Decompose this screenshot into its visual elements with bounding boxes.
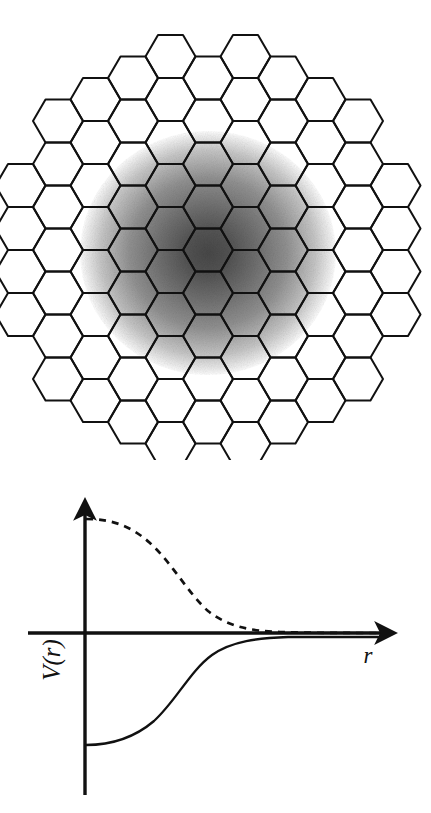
lattice-svg <box>0 0 431 460</box>
attractive-potential-curve <box>86 637 378 745</box>
hexagon-cell <box>371 207 421 250</box>
hexagon-cell <box>221 78 271 121</box>
hexagon-cell <box>33 186 83 229</box>
hexagon-cell <box>296 379 346 422</box>
repulsive-potential-curve <box>86 519 382 633</box>
hexagon-cell <box>71 121 121 164</box>
hexagon-cell <box>258 100 308 143</box>
hexagon-cell <box>0 250 46 293</box>
hexagon-cell <box>71 336 121 379</box>
hexagon-cell <box>258 401 308 444</box>
hexagon-cell <box>333 315 383 358</box>
hexagon-cell <box>33 100 83 143</box>
hexagon-cell <box>108 401 158 444</box>
hexagon-cell <box>71 78 121 121</box>
hexagon-cell <box>146 379 196 422</box>
hexagon-cell <box>296 336 346 379</box>
hexagon-cell <box>108 358 158 401</box>
hexagon-cell <box>33 272 83 315</box>
hexagon-cell <box>333 358 383 401</box>
hexagon-cell <box>183 57 233 100</box>
hexagon-cell <box>71 379 121 422</box>
hexagonal-lattice-panel <box>0 0 431 460</box>
hexagon-cell <box>183 401 233 444</box>
hexagon-cell <box>258 57 308 100</box>
hexagon-cell <box>108 100 158 143</box>
hexagon-cell <box>33 358 83 401</box>
hexagon-cell <box>146 78 196 121</box>
figure-root: V(r) r <box>0 0 431 813</box>
hexagon-cell <box>371 293 421 336</box>
hexagon-cell <box>333 272 383 315</box>
hexagon-cell <box>296 78 346 121</box>
hexagon-cell <box>33 315 83 358</box>
hexagon-cell <box>333 229 383 272</box>
potential-svg: V(r) r <box>0 455 431 813</box>
hexagon-cell <box>33 143 83 186</box>
hexagon-cell <box>371 164 421 207</box>
y-axis-label: V(r) <box>38 639 66 681</box>
hexagon-cell <box>0 164 46 207</box>
hexagon-cell <box>371 250 421 293</box>
hexagon-cell <box>221 35 271 78</box>
hexagon-cell <box>0 207 46 250</box>
potential-plot-panel: V(r) r <box>0 455 431 813</box>
hexagon-cell <box>221 379 271 422</box>
radial-gradient-blob <box>80 131 336 375</box>
hexagon-cell <box>333 186 383 229</box>
hexagon-cell <box>146 35 196 78</box>
hexagon-cell <box>0 293 46 336</box>
hexagon-cell <box>333 100 383 143</box>
hexagon-cell <box>333 143 383 186</box>
hexagon-cell <box>108 57 158 100</box>
x-axis-label: r <box>364 643 374 668</box>
hexagon-cell <box>258 358 308 401</box>
hexagon-cell <box>296 121 346 164</box>
hexagon-cell <box>33 229 83 272</box>
